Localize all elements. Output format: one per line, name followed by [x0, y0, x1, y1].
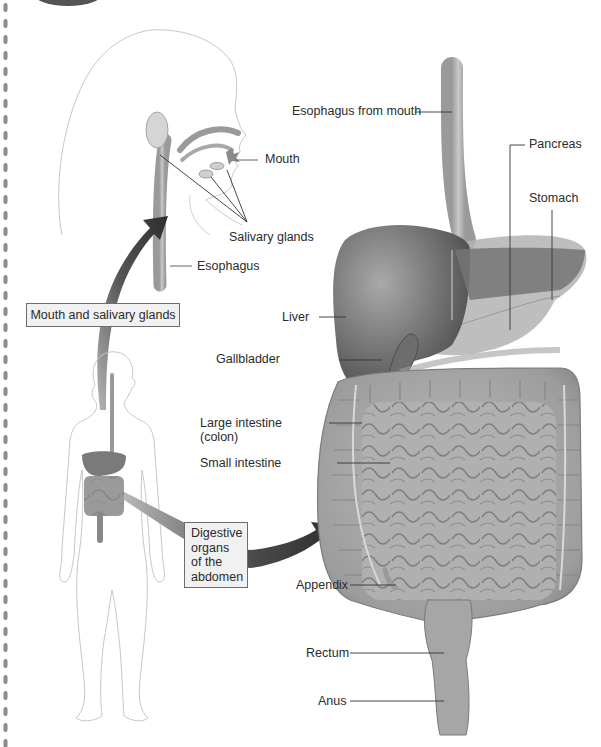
label-esophagus: Esophagus: [197, 259, 260, 274]
label-mouth: Mouth: [265, 152, 300, 167]
label-appendix: Appendix: [296, 578, 348, 593]
label-salivary-glands: Salivary glands: [229, 230, 314, 245]
label-anus: Anus: [318, 694, 347, 709]
label-large-intestine-colon: (colon): [200, 430, 238, 445]
callout-mouth-text: Mouth and salivary glands: [30, 308, 175, 323]
abdominal-organs-illustration: [318, 68, 587, 735]
label-liver: Liver: [282, 310, 309, 325]
head-profile-illustration: [59, 30, 258, 285]
corner-circle-decoration: [32, 0, 104, 6]
label-rectum: Rectum: [306, 646, 349, 661]
label-large-intestine: Large intestine: [200, 416, 282, 431]
label-pancreas: Pancreas: [529, 137, 582, 152]
body-outline-illustration: [60, 352, 165, 721]
callout-digestive-organs-of-abdomen: Digestive organs of the abdomen: [184, 522, 248, 588]
label-stomach: Stomach: [529, 191, 578, 206]
label-esophagus-from-mouth: Esophagus from mouth: [292, 104, 421, 119]
label-gallbladder: Gallbladder: [216, 352, 280, 367]
callout-mouth-and-salivary-glands: Mouth and salivary glands: [26, 303, 180, 327]
label-small-intestine: Small intestine: [200, 456, 281, 471]
digestive-system-diagram: Mouth Salivary glands Esophagus Esophagu…: [0, 0, 601, 747]
